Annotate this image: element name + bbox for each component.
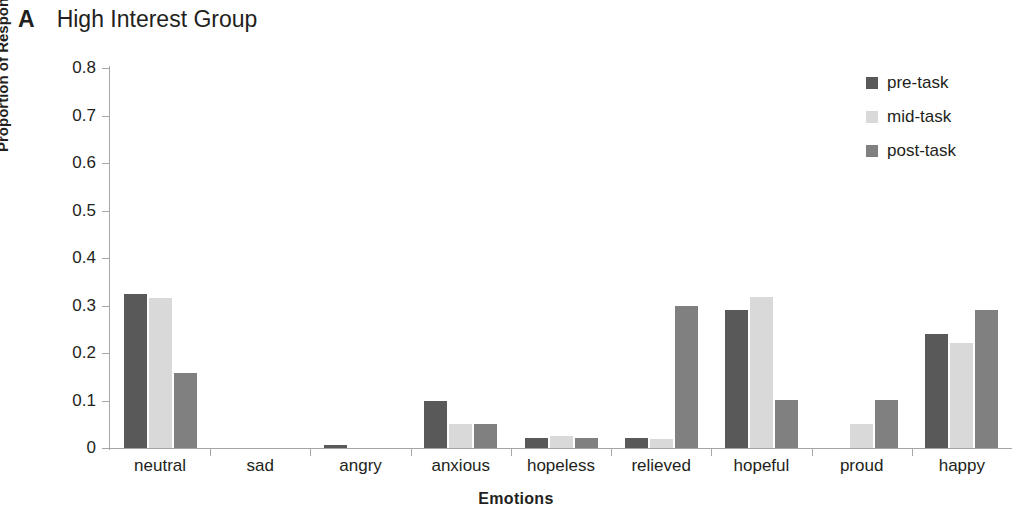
- x-axis-category-label: neutral: [110, 456, 210, 476]
- bar: [149, 298, 172, 448]
- legend-item[interactable]: pre-task: [866, 66, 956, 100]
- legend-label: post-task: [887, 141, 956, 161]
- bar: [324, 445, 347, 448]
- y-axis-tick-label: 0.4: [72, 248, 96, 268]
- x-axis-category-label: hopeful: [711, 456, 811, 476]
- bar-group: [124, 68, 197, 448]
- bar: [449, 424, 472, 448]
- x-axis-category-label: sad: [210, 456, 310, 476]
- y-axis-tick-label: 0.5: [72, 201, 96, 221]
- x-axis-tick: [210, 448, 211, 456]
- bar-group: [324, 68, 397, 448]
- bar-group: [424, 68, 497, 448]
- y-axis-tick-label: 0.7: [72, 106, 96, 126]
- bar: [474, 424, 497, 448]
- bar-group: [224, 68, 297, 448]
- y-axis-tick-label: 0.8: [72, 58, 96, 78]
- legend-label: pre-task: [887, 73, 948, 93]
- y-axis-tick-label: 0: [87, 438, 96, 458]
- y-axis-tick-label: 0.2: [72, 343, 96, 363]
- bar-group: [525, 68, 598, 448]
- x-axis-category-label: hopeless: [511, 456, 611, 476]
- x-axis-category-label: relieved: [611, 456, 711, 476]
- bar: [950, 343, 973, 448]
- x-axis-tick: [812, 448, 813, 456]
- bar: [424, 401, 447, 449]
- x-axis-tick: [611, 448, 612, 456]
- bar: [550, 436, 573, 448]
- bar: [775, 400, 798, 448]
- chart-figure: A High Interest Group Proportion of Resp…: [0, 0, 1032, 530]
- x-axis-tick: [511, 448, 512, 456]
- x-axis-category-label: proud: [812, 456, 912, 476]
- chart-legend: pre-taskmid-taskpost-task: [866, 66, 956, 168]
- bar: [174, 373, 197, 448]
- bar: [925, 334, 948, 448]
- x-axis-tick: [912, 448, 913, 456]
- bar-group: [725, 68, 798, 448]
- bar: [525, 438, 548, 448]
- bar: [124, 294, 147, 448]
- x-axis-category-label: happy: [912, 456, 1012, 476]
- bar: [750, 297, 773, 448]
- y-axis-tick-labels: 0.80.70.60.50.40.30.20.10: [0, 0, 96, 530]
- y-axis-tick-label: 0.1: [72, 391, 96, 411]
- x-axis-category-label: anxious: [411, 456, 511, 476]
- legend-label: mid-task: [887, 107, 951, 127]
- x-axis-category-label: angry: [310, 456, 410, 476]
- legend-swatch-icon: [866, 111, 878, 123]
- bar: [650, 439, 673, 449]
- bar-group: [625, 68, 698, 448]
- x-axis-line: [109, 448, 1012, 449]
- bar: [975, 310, 998, 448]
- legend-swatch-icon: [866, 77, 878, 89]
- bar: [725, 310, 748, 448]
- x-axis-tick: [310, 448, 311, 456]
- bar: [675, 306, 698, 448]
- x-axis-tick: [411, 448, 412, 456]
- bar: [575, 438, 598, 448]
- x-axis-tick: [711, 448, 712, 456]
- legend-swatch-icon: [866, 145, 878, 157]
- y-axis-tick-label: 0.6: [72, 153, 96, 173]
- y-axis-tick-label: 0.3: [72, 296, 96, 316]
- legend-item[interactable]: mid-task: [866, 100, 956, 134]
- x-axis-title: Emotions: [0, 490, 1032, 508]
- bar: [875, 400, 898, 448]
- bar: [625, 438, 648, 448]
- bar: [850, 424, 873, 448]
- legend-item[interactable]: post-task: [866, 134, 956, 168]
